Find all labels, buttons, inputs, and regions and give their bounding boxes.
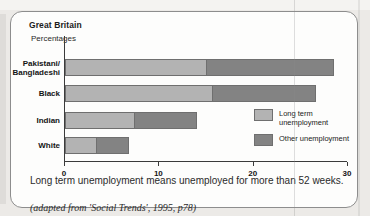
legend-label: Long term unemployment (279, 109, 328, 127)
bar-category-label: Pakistani/ Bangladeshi (0, 58, 60, 77)
x-axis-tick (158, 162, 159, 166)
chart-region-title: Great Britain (29, 20, 82, 30)
bar-segment-other (212, 85, 316, 102)
bar-category-label: White (0, 141, 60, 151)
legend-label: Other unemployment (279, 134, 349, 143)
scanned-page-background: Great Britain Percentages Pakistani/ Ban… (0, 0, 370, 216)
bar-row: Pakistani/ Bangladeshi (65, 59, 334, 76)
legend-swatch (254, 134, 273, 146)
bar-segment-other (134, 112, 197, 129)
legend-swatch (254, 109, 273, 121)
bar-segment-long-term (65, 137, 97, 154)
bar-segment-long-term (65, 85, 213, 102)
scan-artifact-edge (358, 0, 360, 216)
chart-source-note: (adapted from 'Social Trends', 1995, p78… (30, 202, 196, 213)
chart-card: Great Britain Percentages Pakistani/ Ban… (10, 11, 358, 208)
chart-legend: Long term unemploymentOther unemployment (254, 109, 359, 153)
chart-caption: Long term unemployment means unemployed … (30, 174, 346, 187)
legend-item: Long term unemployment (254, 109, 359, 127)
bar-row: Black (65, 85, 316, 102)
bar-segment-long-term (65, 59, 207, 76)
x-axis-tick (347, 162, 348, 166)
bar-row: White (65, 137, 129, 154)
bar-segment-other (206, 59, 333, 76)
legend-item: Other unemployment (254, 134, 359, 146)
bar-category-label: Black (0, 89, 60, 99)
page-top-margin (0, 0, 370, 10)
bar-category-label: Indian (0, 116, 60, 126)
x-axis-tick (253, 162, 254, 166)
bar-segment-other (96, 137, 129, 154)
bar-segment-long-term (65, 112, 135, 129)
x-axis (64, 161, 347, 162)
page-left-margin (0, 14, 6, 204)
bar-row: Indian (65, 112, 197, 129)
x-axis-tick (64, 162, 65, 166)
